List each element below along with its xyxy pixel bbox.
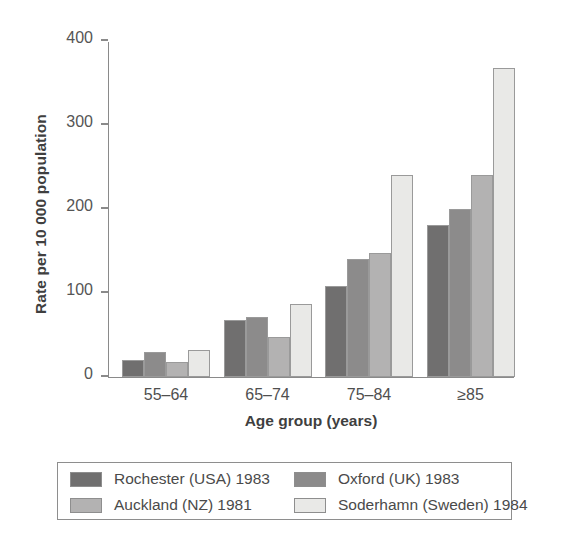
y-tick: 100 [101,291,108,292]
legend-swatch [294,472,326,487]
bar [166,362,188,377]
x-axis-line [108,377,514,378]
bar [122,360,144,377]
x-axis-title: Age group (years) [108,412,514,430]
x-tick-label: ≥85 [415,386,527,404]
bar [224,320,246,376]
y-tick-label: 400 [47,29,93,47]
y-tick-label: 100 [47,281,93,299]
bar [449,209,471,377]
chart-legend: Rochester (USA) 1983Oxford (UK) 1983 Auc… [57,462,512,520]
axes: 0100200300400 55–6465–7475–84≥85 [108,42,514,378]
bar [246,317,268,377]
bar [471,175,493,377]
y-tick: 0 [101,375,108,376]
y-tick: 300 [101,123,108,124]
y-tick: 200 [101,207,108,208]
bar [188,350,210,377]
x-tick-label: 65–74 [212,386,324,404]
bar [290,304,312,376]
y-tick-label: 200 [47,197,93,215]
y-axis-line [108,42,109,378]
bar [144,352,166,376]
bar [325,286,347,377]
x-tick-label: 75–84 [313,386,425,404]
bar [369,253,391,376]
legend-row: Rochester (USA) 1983Oxford (UK) 1983 [58,466,511,492]
legend-item: Rochester (USA) 1983 [70,466,270,492]
bar [347,259,369,377]
legend-label: Auckland (NZ) 1981 [114,496,252,514]
bar-chart-figure: Rate per 10 000 population 0100200300400… [0,0,569,542]
y-tick-label: 0 [47,365,93,383]
legend-item: Auckland (NZ) 1981 [70,492,252,518]
legend-label: Rochester (USA) 1983 [114,470,270,488]
legend-swatch [70,472,102,487]
y-tick-label: 300 [47,113,93,131]
legend-label: Soderhamn (Sweden) 1984 [338,496,528,514]
legend-item: Soderhamn (Sweden) 1984 [294,492,528,518]
legend-swatch [294,498,326,513]
bar [493,68,515,377]
legend-row: Auckland (NZ) 1981Soderhamn (Sweden) 198… [58,492,511,518]
x-tick-label: 55–64 [110,386,222,404]
legend-swatch [70,498,102,513]
bar [427,225,449,376]
bar [268,337,290,376]
bar [391,175,413,377]
plot-area: Rate per 10 000 population 0100200300400… [0,0,569,440]
y-tick: 400 [101,39,108,40]
legend-label: Oxford (UK) 1983 [338,470,459,488]
legend-item: Oxford (UK) 1983 [294,466,459,492]
